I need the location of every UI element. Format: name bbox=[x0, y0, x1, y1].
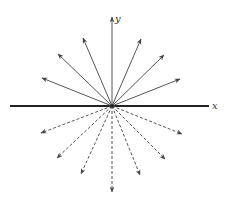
solid-rays-upper bbox=[42, 38, 180, 106]
x-axis-label: x bbox=[212, 100, 218, 111]
solid-ray-arrow bbox=[58, 54, 112, 106]
dashed-ray-arrow bbox=[112, 106, 165, 159]
dashed-ray-arrow bbox=[81, 106, 112, 174]
dashed-rays-lower bbox=[41, 106, 182, 192]
y-axis-label: y bbox=[114, 13, 121, 24]
solid-ray-arrow bbox=[112, 55, 164, 106]
dashed-ray-arrow bbox=[112, 106, 140, 175]
ray-diagram: x y bbox=[0, 0, 227, 203]
origin-point bbox=[110, 104, 114, 108]
dashed-ray-arrow bbox=[112, 106, 182, 134]
dashed-ray-arrow bbox=[57, 106, 112, 158]
